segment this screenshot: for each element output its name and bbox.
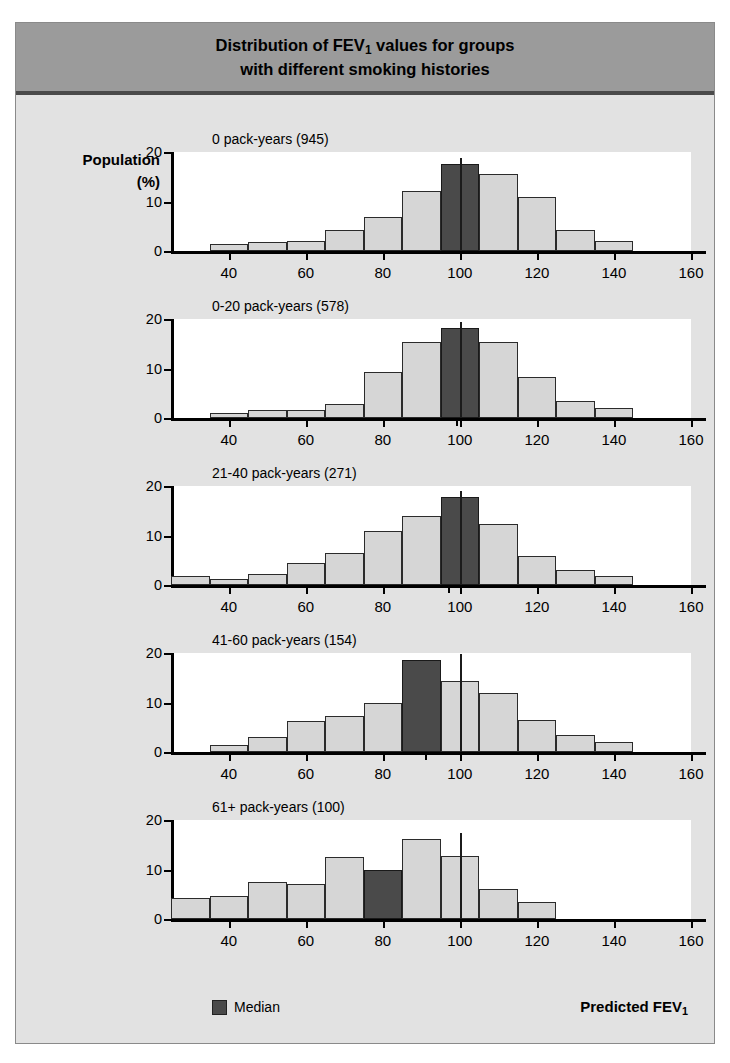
- x-tick: [383, 421, 385, 427]
- x-tick: [614, 922, 616, 928]
- histogram-bar: [556, 570, 595, 585]
- histogram-bar: [479, 342, 518, 418]
- reference-line-100: [460, 654, 462, 752]
- x-tick: [383, 755, 385, 761]
- histogram-bar: [595, 742, 634, 752]
- panel-caption: 41-60 pack-years (154): [212, 632, 357, 648]
- x-tick: [537, 755, 539, 761]
- histogram-bar: [248, 410, 287, 418]
- x-tick-label: 140: [601, 932, 626, 949]
- x-tick: [614, 421, 616, 427]
- x-tick: [537, 588, 539, 594]
- y-axis-line: [171, 486, 174, 588]
- x-tick-label: 80: [375, 431, 392, 448]
- figure-header-band: Distribution of FEV1 values for groups w…: [16, 23, 714, 95]
- y-tick: [164, 319, 171, 321]
- histogram-bar: [556, 401, 595, 418]
- y-tick-label: 10: [146, 193, 162, 209]
- figure-container: Distribution of FEV1 values for groups w…: [15, 22, 715, 1044]
- histogram-bar: [210, 745, 249, 752]
- y-tick-label: 10: [146, 527, 162, 543]
- x-tick: [383, 254, 385, 260]
- x-tick-label: 100: [447, 431, 472, 448]
- y-tick: [164, 752, 171, 754]
- histogram-bar: [210, 413, 249, 418]
- histogram-bar: [518, 720, 557, 752]
- y-tick: [164, 653, 171, 655]
- histogram-bar: [402, 342, 441, 418]
- y-tick-label: 10: [146, 861, 162, 877]
- panel-caption: 0-20 pack-years (578): [212, 298, 349, 314]
- x-tick-label: 120: [524, 598, 549, 615]
- y-tick: [164, 820, 171, 822]
- x-tick: [460, 755, 462, 761]
- x-tick: [614, 588, 616, 594]
- panel-3: 21-40 pack-years (271)010204060801001201…: [16, 465, 716, 630]
- x-axis-line: [171, 251, 706, 254]
- x-tick-label: 160: [678, 598, 703, 615]
- x-tick-label: 80: [375, 598, 392, 615]
- reference-line-100: [460, 491, 462, 585]
- x-tick: [229, 588, 231, 594]
- x-tick: [691, 588, 693, 594]
- y-axis-line: [171, 653, 174, 755]
- histogram-bar: [518, 197, 557, 251]
- histogram-bar: [325, 404, 364, 418]
- y-tick-label: 20: [146, 478, 162, 494]
- histogram-bar: [556, 735, 595, 752]
- x-tick-label: 40: [220, 598, 237, 615]
- histogram-bar: [402, 191, 441, 251]
- x-tick: [229, 922, 231, 928]
- histogram-bar: [210, 579, 249, 585]
- x-tick: [614, 755, 616, 761]
- y-tick-label: 20: [146, 144, 162, 160]
- histogram-bar: [171, 576, 210, 585]
- x-tick-label: 140: [601, 765, 626, 782]
- histogram-bar: [364, 703, 403, 753]
- plot-area: 01020406080100120140160: [171, 152, 691, 254]
- y-axis-line: [171, 152, 174, 254]
- x-axis-title: Predicted FEV1: [580, 998, 688, 1017]
- histogram-bar: [595, 241, 634, 251]
- x-axis-line: [171, 585, 706, 588]
- histogram-bar: [518, 556, 557, 585]
- reference-line-100: [460, 322, 462, 418]
- x-tick-label: 140: [601, 431, 626, 448]
- x-tick-label: 160: [678, 765, 703, 782]
- x-tick-label: 40: [220, 264, 237, 281]
- y-tick-label: 0: [154, 577, 162, 593]
- histogram-bar: [556, 230, 595, 251]
- x-tick-label: 120: [524, 264, 549, 281]
- x-tick: [460, 421, 462, 427]
- panel-caption: 0 pack-years (945): [212, 131, 329, 147]
- x-tick: [691, 755, 693, 761]
- histogram-bar: [287, 721, 326, 752]
- histogram-bar: [248, 882, 287, 919]
- histogram-bar: [171, 898, 210, 919]
- x-tick-label: 140: [601, 264, 626, 281]
- median-tick: [425, 755, 427, 760]
- histogram-bar: [595, 408, 634, 418]
- histogram-bar: [479, 524, 518, 585]
- histogram-bar: [287, 563, 326, 585]
- reference-line-100: [460, 833, 462, 919]
- histogram-bar: [402, 516, 441, 585]
- x-tick-label: 40: [220, 431, 237, 448]
- x-tick-label: 160: [678, 264, 703, 281]
- panel-1: 0 pack-years (945)0102040608010012014016…: [16, 131, 716, 296]
- y-tick: [164, 536, 171, 538]
- x-tick: [306, 755, 308, 761]
- histogram-bar: [518, 377, 557, 418]
- y-tick-label: 0: [154, 410, 162, 426]
- histogram-bar: [325, 553, 364, 585]
- x-tick: [537, 922, 539, 928]
- x-tick: [460, 588, 462, 594]
- y-tick: [164, 703, 171, 705]
- y-tick: [164, 418, 171, 420]
- x-tick-label: 80: [375, 264, 392, 281]
- y-tick-label: 0: [154, 243, 162, 259]
- y-tick-label: 10: [146, 360, 162, 376]
- x-tick-label: 120: [524, 765, 549, 782]
- x-tick: [691, 922, 693, 928]
- histogram-bar: [325, 716, 364, 752]
